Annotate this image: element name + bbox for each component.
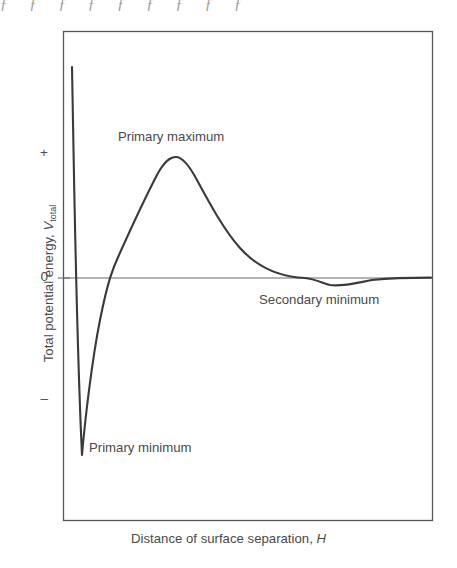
figure-container: Total potential energy, Vtotal Distance … (0, 0, 457, 568)
y-axis-title-subscript: total (48, 205, 58, 222)
x-axis-title-prefix: Distance of surface separation, (131, 531, 316, 546)
y-tick-label-negative: – (26, 392, 48, 406)
annotation-primary-maximum: Primary maximum (118, 130, 224, 143)
y-tick-label-zero: 0 (26, 270, 48, 284)
annotation-primary-minimum: Primary minimum (89, 441, 192, 454)
potential-energy-plot (0, 0, 457, 568)
potential-energy-curve (72, 67, 431, 455)
annotation-secondary-minimum: Secondary minimum (259, 293, 379, 306)
x-axis-title-symbol: H (316, 531, 326, 546)
y-axis-title-symbol: V (41, 222, 56, 231)
y-axis-title-prefix: Total potential energy, (41, 231, 56, 363)
y-tick-label-positive: + (26, 146, 48, 160)
x-axis-title: Distance of surface separation, H (0, 531, 457, 546)
